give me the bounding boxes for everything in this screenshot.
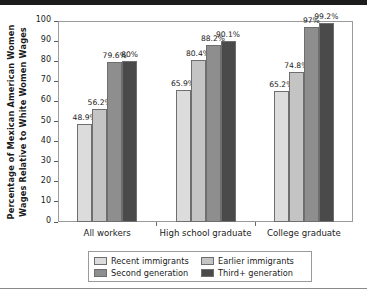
x-axis: All workersHigh school graduateCollege g… <box>58 222 353 246</box>
bar[interactable] <box>319 23 334 222</box>
y-tick-label: 50 <box>41 116 51 125</box>
y-tick-label: 80 <box>41 55 51 64</box>
legend-label: Earlier immigrants <box>218 256 294 266</box>
y-tick-label: 60 <box>41 95 51 104</box>
bar-group: 65.2%74.8%97%99.2% <box>274 21 334 222</box>
legend-item[interactable]: Third+ generation <box>201 268 308 278</box>
bar[interactable] <box>206 45 221 222</box>
legend-swatch <box>201 269 214 277</box>
x-axis-tick <box>156 222 157 226</box>
legend-label: Third+ generation <box>218 268 293 278</box>
bar[interactable] <box>176 90 191 222</box>
x-axis-label: High school graduate <box>160 228 252 238</box>
x-axis-label: College graduate <box>267 228 341 238</box>
bar-group: 48.9%56.2%79.6%80% <box>77 21 137 222</box>
bar[interactable] <box>122 61 137 222</box>
y-tick-label: 40 <box>41 136 51 145</box>
y-tick-label: 90 <box>41 35 51 44</box>
y-axis-ticks: 0102030405060708090100 <box>0 21 58 222</box>
bar-value-label: 80% <box>116 50 144 59</box>
bar-group: 65.9%80.4%88.2%90.1% <box>176 21 236 222</box>
x-axis-tick <box>255 222 256 226</box>
bars-layer: 48.9%56.2%79.6%80%65.9%80.4%88.2%90.1%65… <box>58 21 353 222</box>
legend: Recent immigrantsEarlier immigrantsSecon… <box>88 251 312 282</box>
y-tick-label: 10 <box>41 196 51 205</box>
y-tick-label: 70 <box>41 75 51 84</box>
bar[interactable] <box>107 62 122 222</box>
legend-swatch <box>94 269 107 277</box>
bar[interactable] <box>92 109 107 222</box>
legend-item[interactable]: Earlier immigrants <box>201 256 308 266</box>
bar[interactable] <box>77 124 92 222</box>
y-tick-label: 20 <box>41 176 51 185</box>
legend-label: Second generation <box>111 268 188 278</box>
bar[interactable] <box>221 41 236 222</box>
x-axis-label: All workers <box>84 228 131 238</box>
bar[interactable] <box>274 91 289 222</box>
legend-item[interactable]: Recent immigrants <box>94 256 201 266</box>
legend-swatch <box>201 257 214 265</box>
bar[interactable] <box>191 60 206 222</box>
bar[interactable] <box>304 27 319 222</box>
legend-item[interactable]: Second generation <box>94 268 201 278</box>
y-tick-label: 0 <box>46 216 51 225</box>
figure: Percentage of Mexican American Women Wag… <box>0 0 367 297</box>
legend-label: Recent immigrants <box>111 256 189 266</box>
y-tick-label: 30 <box>41 156 51 165</box>
top-divider-rule <box>0 0 367 5</box>
bottom-divider-rule <box>0 288 367 289</box>
legend-swatch <box>94 257 107 265</box>
bar-value-label: 99.2% <box>312 12 340 21</box>
y-tick-label: 100 <box>36 15 51 24</box>
bar-value-label: 90.1% <box>214 30 242 39</box>
bar[interactable] <box>289 72 304 222</box>
